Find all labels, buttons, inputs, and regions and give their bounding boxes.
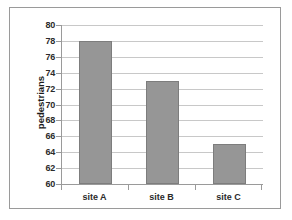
x-axis-tick-mark	[61, 185, 62, 190]
plot-area	[61, 25, 263, 185]
gridline	[62, 25, 263, 26]
y-axis-tick-marks	[10, 25, 61, 185]
x-axis-tick-marks	[61, 185, 264, 191]
x-axis-tick-mark	[128, 185, 129, 190]
x-axis-tick-mark	[261, 185, 262, 190]
x-axis-tick-label: site C	[216, 192, 241, 202]
bar	[213, 144, 246, 184]
chart-figure: pedestrians 8078767472706866646260 site …	[9, 7, 281, 209]
x-axis-tick-labels: site Asite Bsite C	[61, 192, 264, 206]
bar	[146, 81, 179, 184]
x-axis-tick-mark	[195, 185, 196, 190]
bar	[79, 41, 112, 184]
x-axis-tick-label: site B	[149, 192, 174, 202]
x-axis-tick-label: site A	[82, 192, 106, 202]
